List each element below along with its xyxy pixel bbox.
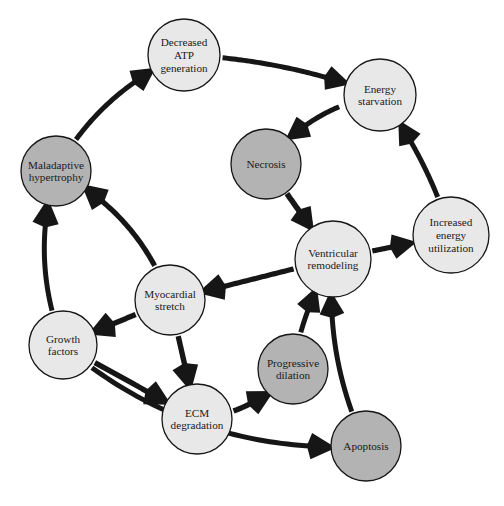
node-label-line: Energy bbox=[364, 83, 397, 95]
node-label-growth_factors: Growthfactors bbox=[46, 333, 81, 358]
node-label-line: degradation bbox=[171, 419, 224, 431]
node-label-line: energy bbox=[436, 229, 467, 241]
edge-decreased_atp-to-energy_starvation bbox=[223, 58, 329, 78]
edge-increased_energy_utilization-to-energy_starvation bbox=[410, 140, 438, 197]
node-label-line: ECM bbox=[185, 407, 209, 419]
node-label-energy_starvation: Energystarvation bbox=[358, 83, 403, 108]
node-ecm_degradation[interactable]: ECMdegradation bbox=[162, 384, 232, 454]
node-maladaptive_hypertrophy[interactable]: Maladaptivehypertrophy bbox=[21, 136, 91, 206]
node-ventricular_remodeling[interactable]: Ventricularremodeling bbox=[295, 221, 371, 297]
node-label-necrosis: Necrosis bbox=[246, 158, 285, 170]
edge-myocardial_stretch-to-maladaptive_hypertrophy bbox=[100, 200, 154, 266]
node-label-ventricular_remodeling: Ventricularremodeling bbox=[308, 247, 359, 272]
node-label-line: remodeling bbox=[308, 259, 359, 271]
node-label-line: utilization bbox=[428, 242, 474, 254]
node-label-line: Decreased bbox=[161, 36, 208, 48]
node-label-line: Increased bbox=[430, 216, 473, 228]
edge-myocardial_stretch-to-ecm_degradation bbox=[178, 336, 185, 367]
node-label-maladaptive_hypertrophy: Maladaptivehypertrophy bbox=[28, 159, 84, 184]
edge-growth_factors-to-maladaptive_hypertrophy bbox=[44, 223, 52, 311]
node-myocardial_stretch[interactable]: Myocardialstretch bbox=[135, 265, 205, 335]
node-growth_factors[interactable]: Growthfactors bbox=[29, 311, 97, 379]
node-label-line: stretch bbox=[155, 300, 185, 312]
edge-ventricular_remodeling-to-myocardial_stretch bbox=[222, 269, 294, 287]
node-layer: DecreasedATPgenerationEnergystarvationMa… bbox=[21, 19, 489, 481]
node-label-line: Maladaptive bbox=[28, 159, 84, 171]
node-increased_energy_utilization[interactable]: Increasedenergyutilization bbox=[413, 197, 489, 273]
node-label-line: factors bbox=[48, 345, 78, 357]
node-progressive_dilation[interactable]: Progressivedilation bbox=[258, 334, 328, 404]
node-necrosis[interactable]: Necrosis bbox=[231, 129, 301, 199]
node-label-line: Progressive bbox=[267, 357, 319, 369]
node-label-line: starvation bbox=[358, 95, 403, 107]
node-apoptosis[interactable]: Apoptosis bbox=[331, 411, 401, 481]
node-label-apoptosis: Apoptosis bbox=[343, 440, 388, 452]
node-decreased_atp[interactable]: DecreasedATPgeneration bbox=[148, 19, 220, 91]
node-label-line: Necrosis bbox=[246, 158, 285, 170]
flow-diagram: DecreasedATPgenerationEnergystarvationMa… bbox=[0, 0, 504, 506]
node-label-line: Growth bbox=[46, 333, 81, 345]
node-label-line: Myocardial bbox=[144, 288, 196, 300]
edge-apoptosis-to-ventricular_remodeling bbox=[332, 314, 352, 412]
edge-energy_starvation-to-necrosis bbox=[304, 107, 339, 127]
node-label-line: hypertrophy bbox=[29, 171, 84, 183]
node-label-line: Ventricular bbox=[308, 247, 358, 259]
node-energy_starvation[interactable]: Energystarvation bbox=[344, 59, 416, 131]
node-label-line: ATP bbox=[174, 49, 194, 61]
node-label-line: generation bbox=[160, 62, 208, 74]
diagram-canvas: DecreasedATPgenerationEnergystarvationMa… bbox=[0, 0, 504, 506]
edge-maladaptive_hypertrophy-to-decreased_atp bbox=[76, 81, 137, 140]
node-label-line: Apoptosis bbox=[343, 440, 388, 452]
node-label-line: dilation bbox=[276, 369, 311, 381]
